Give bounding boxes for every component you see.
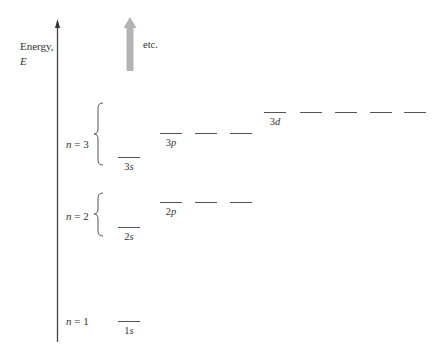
energy-axis <box>55 19 60 342</box>
orbital-3d-2 <box>300 112 322 113</box>
etc-note: etc. <box>143 39 158 51</box>
up-arrow-icon <box>124 17 137 71</box>
orbital-2p-1 <box>160 202 182 203</box>
subshell-label-1s: 1s <box>118 325 140 336</box>
brace-n2 <box>94 193 103 236</box>
orbital-3d-3 <box>335 112 357 113</box>
orbital-3p-3 <box>230 133 252 134</box>
subshell-label-3s: 3s <box>118 161 140 172</box>
shell-label-n1: nn = 1 = 1 <box>66 315 89 327</box>
subshell-label-3p: 3p <box>160 137 182 148</box>
orbital-2p-2 <box>195 202 217 203</box>
shell-label-n2: nn = 2 = 2 <box>66 210 89 222</box>
orbital-3p-1 <box>160 133 182 134</box>
subshell-label-2p: 2p <box>160 206 182 217</box>
orbital-3d-4 <box>370 112 392 113</box>
orbital-1s <box>118 321 140 322</box>
orbital-2p-3 <box>230 202 252 203</box>
orbital-3d-5 <box>404 112 426 113</box>
diagram-graphics <box>0 0 448 361</box>
subshell-label-2s: 2s <box>118 231 140 242</box>
orbital-2s <box>118 227 140 228</box>
brace-n3 <box>94 103 103 165</box>
axis-label-e: E <box>20 55 27 67</box>
orbital-3p-2 <box>195 133 217 134</box>
orbital-3s <box>118 157 140 158</box>
shell-label-n3: nn = 3 = 3 <box>66 138 89 150</box>
subshell-label-3d: 3d <box>264 116 286 127</box>
orbital-3d-1 <box>264 112 286 113</box>
axis-label-energy: Energy, <box>20 40 54 52</box>
